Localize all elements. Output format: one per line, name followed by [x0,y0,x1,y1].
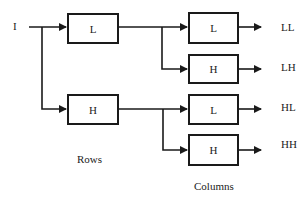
filter-label: L [210,22,217,34]
output-ll: LL [281,21,294,33]
column-filter-hl: L [188,94,239,125]
wavelet-decomposition-diagram: I L H L H L H LL LH HL HH Rows Columns [0,0,308,201]
filter-label: L [90,23,97,35]
input-label: I [13,20,17,32]
output-lh: LH [281,61,296,73]
column-filter-hh: H [188,134,239,166]
output-hl: HL [281,101,296,113]
connector-lines [0,0,308,201]
filter-label: L [210,104,217,116]
rows-caption: Rows [77,153,102,165]
column-filter-ll: L [188,12,239,44]
row-lowpass-filter: L [67,13,119,44]
row-highpass-filter: H [67,94,119,125]
filter-label: H [210,144,218,156]
output-hh: HH [281,138,297,150]
column-filter-lh: H [188,54,239,84]
filter-label: H [210,63,218,75]
filter-label: H [89,104,97,116]
columns-caption: Columns [194,180,234,192]
